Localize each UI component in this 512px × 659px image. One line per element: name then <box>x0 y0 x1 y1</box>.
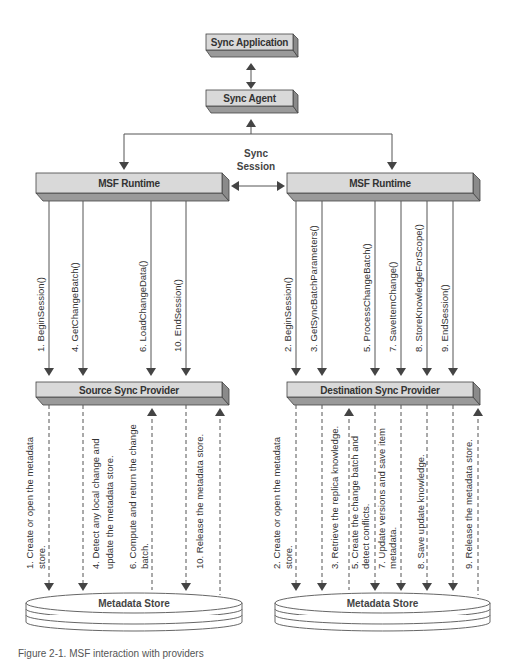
destination-store-note-5-line2: detect conflicts. <box>360 504 371 569</box>
source-metadata-store: Metadata Store <box>26 593 242 631</box>
source-store-note-4-line2: update the metadata store. <box>104 455 115 569</box>
figure-caption: Figure 2-1. MSF interaction with provide… <box>18 648 204 659</box>
destination-call-label-8: 8. StoreKnowledgeForScope() <box>413 224 424 352</box>
destination-store-note-7: 7. Update versions and save item <box>376 428 387 569</box>
source-store-note-4: 4. Detect any local change and <box>90 439 101 569</box>
source-call-label-6: 6. LoadChangeData() <box>137 261 148 352</box>
destination-store-note-3: 3. Retrieve the replica knowledge. <box>329 426 340 569</box>
destination-msf-runtime-box: MSF Runtime <box>287 173 480 201</box>
sync-session-label-line2: Session <box>237 161 275 172</box>
destination-call-label-5: 5. ProcessChangeBatch() <box>361 243 372 352</box>
source-store-note-10: 10. Release the metadata store. <box>194 434 205 569</box>
source-store-label: Metadata Store <box>98 598 170 609</box>
destination-store-note-5: 5. Create the change batch and <box>349 436 360 569</box>
destination-metadata-store: Metadata Store <box>275 593 490 631</box>
sync-application-label: Sync Application <box>211 37 289 48</box>
source-store-note-1-line2: store. <box>36 545 47 569</box>
destination-call-label-7: 7. SaveItemChange() <box>387 262 398 352</box>
destination-sync-provider-box: Destination Sync Provider <box>287 382 480 405</box>
source-store-note-1: 1. Create or open the metadata <box>24 436 35 569</box>
destination-call-label-2: 2. BeginSession() <box>282 277 293 352</box>
destination-store-note-9: 9. Release the metadata store. <box>463 439 474 569</box>
sync-agent-box: Sync Agent <box>206 90 298 113</box>
source-call-label-4: 4. GetChangeBatch() <box>69 262 80 352</box>
destination-call-label-3: 3. GetSyncBatchParameters() <box>308 225 319 352</box>
sync-application-box: Sync Application <box>206 34 298 57</box>
destination-store-note-8: 8. Save update knowledge. <box>415 454 426 569</box>
source-store-note-6-line2: batch. <box>139 543 150 569</box>
source-call-label-10: 10. EndSession() <box>172 279 183 352</box>
source-store-note-6: 6. Compute and return the change <box>127 424 138 569</box>
destination-call-label-9: 9. EndSession() <box>439 284 450 352</box>
destination-store-note-2-line2: store. <box>283 545 294 569</box>
sync-session-arrow <box>231 181 285 191</box>
app-agent-arrow <box>246 63 256 89</box>
source-call-label-1: 1. BeginSession() <box>35 277 46 352</box>
destination-store-note-7-line2: metadata. <box>387 527 398 569</box>
destination-runtime-label: MSF Runtime <box>349 178 411 189</box>
source-sync-provider-box: Source Sync Provider <box>36 382 229 405</box>
destination-provider-label: Destination Sync Provider <box>320 385 440 396</box>
source-provider-label: Source Sync Provider <box>79 385 179 396</box>
sync-agent-label: Sync Agent <box>223 93 277 104</box>
destination-store-label: Metadata Store <box>347 598 419 609</box>
sync-session-label-line1: Sync <box>244 148 268 159</box>
source-msf-runtime-box: MSF Runtime <box>36 173 229 201</box>
destination-store-note-2: 2. Create or open the metadata <box>271 436 282 569</box>
source-runtime-label: MSF Runtime <box>98 178 160 189</box>
source-call-lines <box>44 201 191 376</box>
